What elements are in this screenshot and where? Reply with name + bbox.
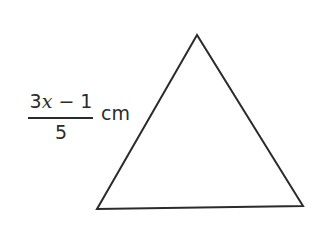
unit-label: cm: [101, 102, 130, 124]
fraction-denominator: 5: [28, 120, 94, 144]
fraction-bar: [28, 117, 93, 119]
numerator-variable: x: [42, 90, 53, 112]
fraction-numerator: 3x − 1: [28, 90, 94, 112]
numerator-coefficient: 3: [30, 90, 42, 112]
numerator-rest: − 1: [52, 90, 92, 112]
